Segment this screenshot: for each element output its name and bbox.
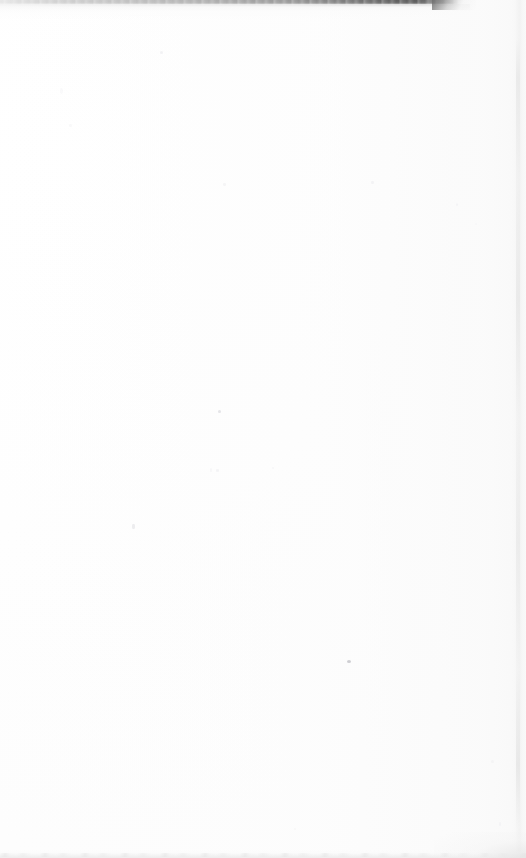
- page-text-area: [0, 0, 526, 858]
- scanned-page: [0, 0, 526, 858]
